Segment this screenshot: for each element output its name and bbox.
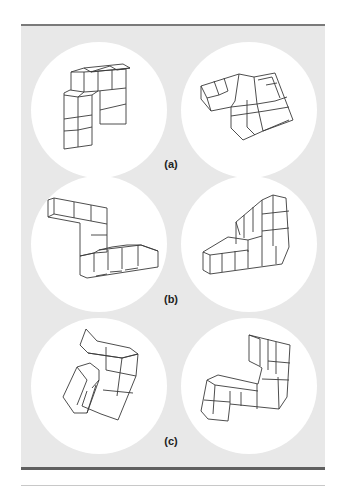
row-label-c: (c) (151, 435, 191, 447)
cube-figure-c-right (0, 0, 342, 491)
bottom-rule (21, 485, 325, 486)
